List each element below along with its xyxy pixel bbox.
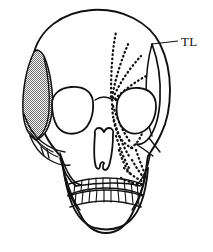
temporal-line-label: TL: [181, 34, 198, 49]
shaded-temporalis-patch: [23, 50, 53, 140]
left-orbit: [52, 87, 93, 134]
nasal-aperture: [94, 128, 113, 170]
skull-illustration: TL: [0, 0, 213, 252]
skull-figure: TL: [0, 0, 213, 252]
leader-line: [152, 41, 178, 44]
lower-teeth-row: [68, 190, 143, 207]
right-orbit: [117, 88, 156, 134]
